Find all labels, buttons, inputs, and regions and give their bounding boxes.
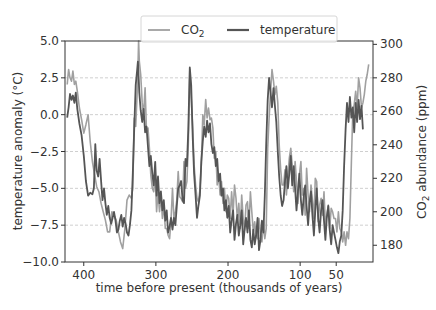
y-right-label-rest: abundance (ppm) [415,85,429,196]
y-right-tick-label: 220 [380,171,403,185]
series-layer [67,41,369,253]
y-right-axis-ticks: 300280260240220200180 [373,37,403,252]
y-right-tick-label: 200 [380,205,403,219]
y-right-tick-label: 240 [380,138,403,152]
y-right-tick-label: 300 [380,37,403,51]
y-left-tick-label: −10.0 [22,255,59,269]
legend: CO2 temperature [141,16,337,42]
x-axis-label: time before present (thousands of years) [96,281,343,295]
y-right-label-base: CO [415,201,429,219]
x-tick-label: 300 [144,268,167,282]
x-tick-label: 200 [217,268,240,282]
y-left-tick-label: 0.0 [40,108,59,122]
y-left-axis-label: temperature anomaly (°C) [11,72,25,231]
legend-label-temperature: temperature [260,23,335,37]
y-right-axis-label: CO2 abundance (ppm) [415,85,431,219]
y-left-tick-label: 5.0 [40,34,59,48]
y-left-axis-ticks: 5.02.50.0−2.5−5.0−7.5−10.0 [22,34,65,269]
y-left-tick-label: −7.5 [30,218,59,232]
y-right-tick-label: 180 [380,238,403,252]
y-right-tick-label: 260 [380,104,403,118]
y-right-tick-label: 280 [380,71,403,85]
chart-svg: 40030020010050 5.02.50.0−2.5−5.0−7.5−10.… [0,0,436,310]
temperature-line [67,62,363,254]
x-axis-ticks: 40030020010050 [72,262,344,282]
x-tick-label: 400 [72,268,95,282]
y-left-tick-label: −5.0 [30,181,59,195]
x-tick-label: 50 [329,268,344,282]
x-tick-label: 100 [289,268,312,282]
y-left-tick-label: 2.5 [40,71,59,85]
y-left-tick-label: −2.5 [30,145,59,159]
gridlines [65,78,373,225]
